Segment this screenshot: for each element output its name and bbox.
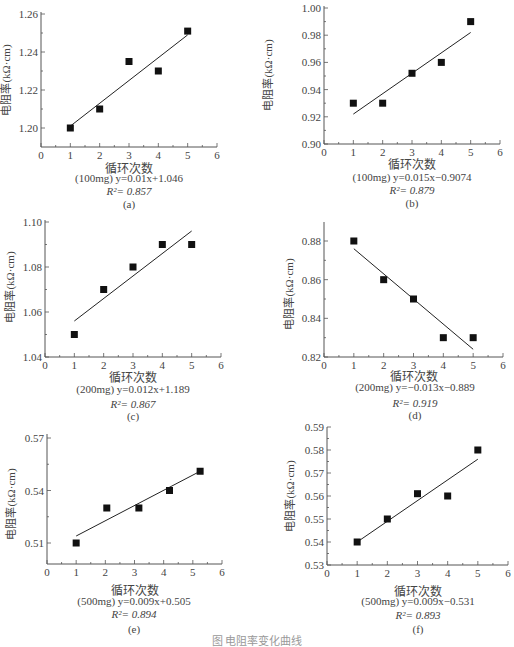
panel-label-f: (f) bbox=[300, 623, 514, 635]
x-tick-label: 3 bbox=[132, 566, 138, 578]
data-point bbox=[103, 505, 110, 512]
x-tick-label: 5 bbox=[475, 567, 481, 579]
y-tick-label: 0.86 bbox=[302, 274, 322, 286]
y-tick-label: 1.20 bbox=[19, 122, 39, 134]
fit-equation-d: (200mg) y=−0.013x−0.889 bbox=[300, 381, 514, 393]
y-tick-label: 1.22 bbox=[19, 84, 38, 96]
y-tick-label: 1.08 bbox=[23, 261, 43, 273]
x-tick-label: 0 bbox=[44, 566, 50, 578]
y-tick-label: 0.51 bbox=[25, 537, 44, 549]
fit-equation-e: (500mg) y=0.009x+0.505 bbox=[20, 595, 248, 607]
data-point bbox=[410, 296, 417, 303]
fit-line bbox=[70, 35, 187, 126]
panel-label-a: (a) bbox=[20, 198, 238, 210]
x-tick-label: 0 bbox=[324, 567, 330, 579]
fit-line bbox=[76, 471, 200, 536]
data-point bbox=[184, 28, 191, 35]
data-point bbox=[414, 490, 421, 497]
r-squared-c: R²= 0.867 bbox=[20, 398, 246, 410]
data-point bbox=[379, 100, 386, 107]
axis-title-y: 电阻率(kΩ·cm) bbox=[0, 44, 13, 115]
x-tick-label: 2 bbox=[103, 566, 109, 578]
r-squared-d: R²= 0.919 bbox=[300, 397, 514, 409]
y-tick-label: 0.82 bbox=[302, 351, 321, 363]
y-tick-label: 0.58 bbox=[305, 444, 325, 456]
data-point bbox=[126, 58, 133, 65]
data-point bbox=[130, 264, 137, 271]
panel-label-d: (d) bbox=[300, 409, 514, 421]
x-tick-label: 1 bbox=[354, 567, 360, 579]
y-tick-label: 0.57 bbox=[25, 432, 45, 444]
data-point bbox=[438, 59, 445, 66]
r-squared-b: R²= 0.879 bbox=[300, 184, 514, 196]
fit-line bbox=[357, 459, 478, 542]
data-point bbox=[470, 334, 477, 341]
data-point bbox=[159, 241, 166, 248]
y-tick-label: 0.57 bbox=[305, 467, 325, 479]
data-point bbox=[67, 125, 74, 132]
data-point bbox=[350, 238, 357, 245]
y-tick-label: 0.54 bbox=[305, 536, 325, 548]
fit-equation-c: (200mg) y=0.012x+1.189 bbox=[20, 383, 246, 395]
data-point bbox=[380, 276, 387, 283]
y-tick-label: 0.92 bbox=[302, 111, 321, 123]
data-point bbox=[71, 331, 78, 338]
y-tick-label: 1.26 bbox=[19, 8, 39, 20]
data-point bbox=[354, 539, 361, 546]
y-tick-label: 1.24 bbox=[19, 46, 39, 58]
x-tick-label: 1 bbox=[73, 566, 79, 578]
data-point bbox=[166, 487, 173, 494]
y-tick-label: 0.90 bbox=[302, 138, 322, 150]
data-point bbox=[444, 493, 451, 500]
data-point bbox=[135, 505, 142, 512]
x-tick-label: 6 bbox=[505, 567, 511, 579]
axis-title-y: 电阻率(kΩ·cm) bbox=[261, 39, 275, 110]
axis-title-y: 电阻率(kΩ·cm) bbox=[282, 258, 296, 329]
figure-caption: 图 电阻率变化曲线 bbox=[0, 636, 514, 647]
y-tick-label: 0.56 bbox=[305, 490, 325, 502]
axis-title-y: 电阻率(kΩ·cm) bbox=[4, 468, 18, 539]
y-tick-label: 1.04 bbox=[23, 351, 43, 363]
data-point bbox=[197, 468, 204, 475]
y-tick-label: 0.53 bbox=[305, 559, 325, 571]
data-point bbox=[474, 447, 481, 454]
data-point bbox=[73, 540, 80, 547]
axis-title-y: 电阻率(kΩ·cm) bbox=[3, 251, 17, 322]
data-point bbox=[440, 334, 447, 341]
fit-equation-a: (100mg) y=0.01x+1.046 bbox=[20, 172, 238, 184]
y-tick-label: 0.55 bbox=[305, 513, 325, 525]
y-tick-label: 0.84 bbox=[302, 312, 322, 324]
x-tick-label: 4 bbox=[445, 567, 451, 579]
data-point bbox=[384, 516, 391, 523]
data-point bbox=[155, 68, 162, 75]
r-squared-a: R²= 0.857 bbox=[20, 185, 238, 197]
y-tick-label: 0.59 bbox=[305, 424, 325, 433]
panel-label-c: (c) bbox=[20, 410, 246, 422]
y-tick-label: 1.06 bbox=[23, 306, 43, 318]
data-point bbox=[409, 70, 416, 77]
x-tick-label: 2 bbox=[385, 567, 391, 579]
data-point bbox=[188, 241, 195, 248]
fit-line bbox=[74, 231, 191, 321]
data-point bbox=[100, 286, 107, 293]
y-tick-label: 0.96 bbox=[302, 56, 322, 68]
y-tick-label: 1.00 bbox=[302, 2, 322, 14]
y-tick-label: 1.10 bbox=[23, 216, 43, 228]
x-tick-label: 5 bbox=[190, 566, 196, 578]
r-squared-e: R²= 0.894 bbox=[20, 608, 248, 620]
fit-equation-f: (500mg) y=0.009x−0.531 bbox=[300, 595, 514, 607]
y-tick-label: 0.94 bbox=[302, 84, 322, 96]
x-tick-label: 4 bbox=[161, 566, 167, 578]
axis-title-y: 电阻率(kΩ·cm) bbox=[283, 460, 297, 531]
panel-label-b: (b) bbox=[300, 197, 514, 209]
data-point bbox=[96, 106, 103, 113]
fit-equation-b: (100mg) y=0.015x−0.9074 bbox=[300, 171, 514, 183]
panel-label-e: (e) bbox=[20, 623, 248, 635]
y-tick-label: 0.54 bbox=[25, 485, 45, 497]
data-point bbox=[467, 18, 474, 25]
x-tick-label: 3 bbox=[415, 567, 421, 579]
y-tick-label: 0.98 bbox=[302, 29, 322, 41]
y-tick-label: 0.88 bbox=[302, 235, 322, 247]
data-point bbox=[350, 100, 357, 107]
x-tick-label: 6 bbox=[219, 566, 225, 578]
